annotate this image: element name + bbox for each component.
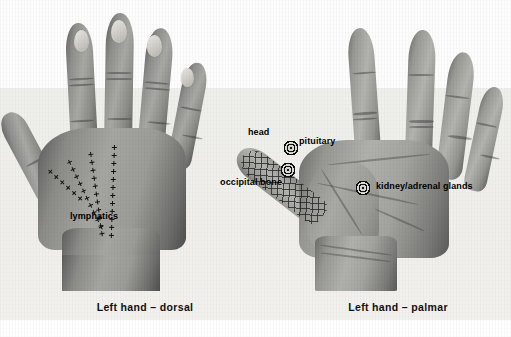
fingernail-middle-dorsal (111, 20, 127, 43)
fingernail-little-dorsal (181, 68, 194, 87)
finger-crease (106, 72, 132, 74)
caption-palmar: Left hand – palmar (348, 302, 448, 313)
finger-crease (106, 78, 132, 80)
label-lymphatics: lymphatics (70, 212, 118, 221)
marker-pituitary (283, 140, 299, 156)
finger-crease (409, 126, 434, 128)
figure-canvas: lymphatics (0, 0, 511, 337)
fingernail-ring-dorsal (147, 35, 162, 57)
wrist-palmar (315, 236, 397, 291)
fingernail-index-dorsal (74, 30, 89, 52)
finger-crease (408, 74, 434, 76)
label-pituitary: pituitary (299, 137, 335, 146)
caption-dorsal: Left hand – dorsal (97, 302, 194, 313)
marker-occipital-bone (280, 162, 296, 178)
label-kidney-adrenal-glands: kidney/adrenal glands (376, 182, 473, 191)
label-head: head (248, 128, 269, 137)
finger-crease (107, 118, 132, 120)
marker-kidney-adrenal-glands (355, 180, 371, 196)
finger-crease (409, 120, 434, 123)
hand-photo-dorsal: lymphatics (0, 0, 255, 300)
hand-photo-palmar (255, 0, 511, 300)
label-occipital-bone: occipital bone (220, 178, 282, 187)
page-bottom-margin (0, 320, 511, 337)
wrist-dorsal-crop (62, 255, 160, 291)
